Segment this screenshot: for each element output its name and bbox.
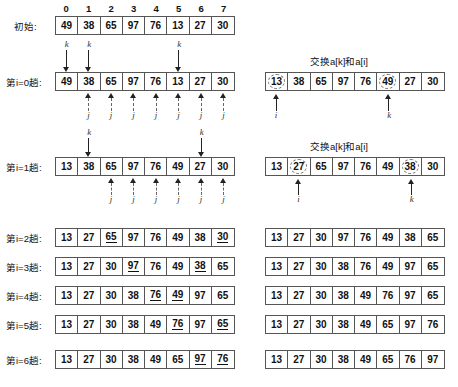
row-label-pass3: 第i=3趟: [6,263,42,273]
array-cell-value: 13 [61,320,72,330]
array-pass3: 1327309776493865 [55,257,235,276]
array-cell: 65 [212,287,234,304]
array-cell-value: 49 [382,162,393,172]
swap-caption-pass0-text: 交换a[k]和a[i] [310,56,368,67]
array-pass2: 1327659776493830 [55,228,235,247]
array-cell: 65 [167,351,189,368]
arrow-shaft [178,50,179,67]
array-pass5: 1327303849769765 [55,315,235,334]
j-pointer-pass1-6-label: j [200,195,203,204]
array-cell-value: 76 [150,77,161,87]
array-pass4: 1327303876499765 [55,286,235,305]
array-cell: 13 [266,351,288,368]
array-cell-value: 38 [338,320,349,330]
array-cell: 38 [333,258,355,275]
array-cell-value: 27 [195,77,206,87]
array-cell: 97 [123,258,145,275]
array-cell-value: 38 [405,233,416,243]
array-cell-value: 13 [271,320,282,330]
array-cell: 13 [167,73,189,90]
array-cell-value: 76 [172,319,183,330]
array-cell-value: 76 [150,290,161,301]
array-cell-value: 13 [271,233,282,243]
array-cell-value: 76 [382,291,393,301]
array-cell: 49 [56,17,78,34]
array-cell-value: 30 [427,162,438,172]
array-cell-value: 30 [217,21,228,31]
column-index-4: 4 [145,4,168,14]
j-pointer-pass0-5-label: j [177,111,180,120]
array-cell: 27 [288,287,310,304]
array-cell-value: 65 [382,320,393,330]
array-cell: 49 [167,258,189,275]
array-cell: 97 [333,229,355,246]
array-cell: 65 [377,316,399,333]
column-index-0: 0 [55,4,78,14]
array-cell: 76 [355,158,377,175]
pointer-pass1-result-k-label: k [410,195,414,204]
array-cell: 65 [422,229,444,246]
swap-caption-pass1-text: 交换a[k]和a[i] [310,141,368,152]
j-pointer-pass0-4-label: j [155,111,158,120]
array-cell-value: 30 [217,232,228,243]
array-cell: 30 [212,17,234,34]
j-pointer-pass1-7-arrow [219,178,228,195]
array-cell: 27 [400,73,422,90]
array-cell: 76 [400,351,422,368]
array-cell-value: 27 [83,291,94,301]
array-cell-value: 13 [271,77,282,87]
array-pass0: 4938659776132730 [55,72,235,91]
array-cell: 13 [56,287,78,304]
array-cell: 30 [311,258,333,275]
array-cell-value: 65 [427,262,438,272]
array-cell: 13 [266,258,288,275]
array-cell: 30 [311,351,333,368]
array-cell: 65 [101,229,123,246]
array-cell: 97 [190,351,212,368]
array-cell-value: 27 [293,291,304,301]
array-initial: 4938659776132730 [55,16,235,35]
j-pointer-pass1-4-arrow [152,178,161,195]
array-cell: 13 [56,229,78,246]
array-cell: 38 [190,229,212,246]
array-cell-value: 76 [150,162,161,172]
array-cell: 76 [355,73,377,90]
array-cell: 65 [422,258,444,275]
array-cell: 27 [190,158,212,175]
k-pointer-pass0-1-arrow [84,50,93,72]
array-cell: 97 [123,17,145,34]
array-cell-value: 65 [106,21,117,31]
pointer-pass0-result-i-label: i [275,111,278,120]
array-cell-value: 38 [83,162,94,172]
array-cell-value: 65 [427,291,438,301]
array-pass1: 1338659776492730 [55,157,235,176]
array-cell-value: 49 [61,77,72,87]
array-cell-value: 30 [106,355,117,365]
array-cell: 27 [288,316,310,333]
array-cell-value: 27 [83,320,94,330]
array-cell: 30 [311,316,333,333]
array-cell-value: 13 [61,262,72,272]
array-cell-value: 76 [150,233,161,243]
array-cell-value: 38 [338,291,349,301]
array-cell: 49 [377,258,399,275]
array-cell-value: 30 [106,320,117,330]
array-cell-value: 97 [195,320,206,330]
array-cell-value: 97 [427,355,438,365]
array-cell: 49 [355,287,377,304]
array-cell: 49 [56,73,78,90]
array-cell: 38 [400,158,422,175]
array-cell: 97 [422,351,444,368]
array-cell-value: 97 [128,162,139,172]
array-cell: 65 [212,258,234,275]
pointer-pass1-result-i-label: i [297,195,300,204]
array-cell-value: 38 [128,291,139,301]
j-pointer-pass0-4-arrow [152,93,161,111]
j-pointer-pass1-7-label: j [222,195,225,204]
array-cell-value: 30 [316,320,327,330]
k-pointer-pass1-1-label: k [87,128,91,137]
arrow-shaft [201,138,202,152]
array-cell: 76 [145,158,167,175]
array-cell: 38 [288,73,310,90]
column-index-2: 2 [100,4,123,14]
